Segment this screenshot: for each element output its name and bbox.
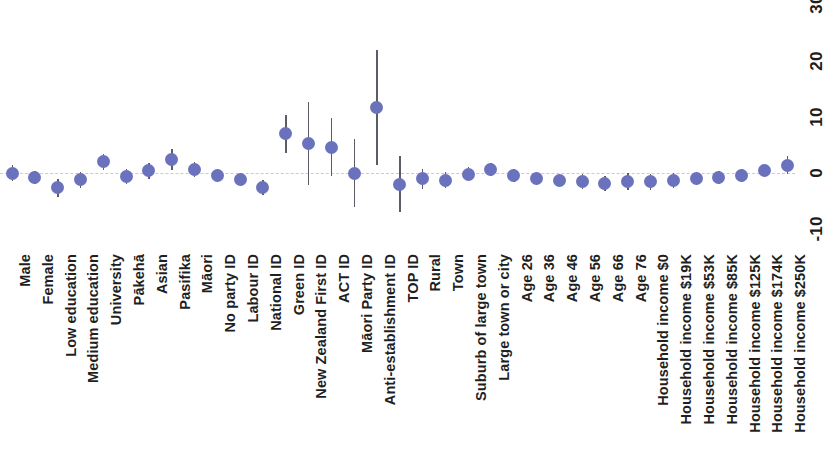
x-axis-tick-label: Low education <box>64 254 79 357</box>
x-axis-tick-label: New Zealand First ID <box>314 254 329 399</box>
x-axis-tick-label-text: Age 76 <box>634 254 649 302</box>
x-axis-tick-label-text: Household income $85K <box>725 254 740 425</box>
data-point-group <box>137 0 160 248</box>
x-axis-tick-label: Pākehā <box>132 254 147 305</box>
data-point-group <box>639 0 662 248</box>
x-axis-tick-label: Household income $125K <box>748 254 763 433</box>
data-point-group <box>274 0 297 248</box>
estimate-dot <box>439 174 452 187</box>
x-axis-tick-label-text: Male <box>18 254 33 287</box>
estimate-dot <box>690 172 703 185</box>
x-axis-tick-label: ACT ID <box>337 254 352 303</box>
estimate-dot <box>735 169 748 182</box>
x-axis-tick-label-text: National ID <box>269 254 284 331</box>
estimate-dot <box>97 155 110 168</box>
estimate-dot <box>279 127 292 140</box>
x-axis-tick-label: Household income $85K <box>725 254 740 425</box>
x-axis-tick-label: Large town or city <box>497 254 512 381</box>
x-axis-tick-label: Household income $250K <box>793 254 808 433</box>
estimate-dot <box>484 163 497 176</box>
x-axis-tick-label-text: New Zealand First ID <box>314 254 329 399</box>
data-point-group <box>411 0 434 248</box>
data-point-group <box>69 0 92 248</box>
x-axis-tick-label: No party ID <box>223 254 238 332</box>
x-axis-tick-label: Household income $174K <box>770 254 785 433</box>
data-point-group <box>297 0 320 248</box>
x-axis-tick-label: Age 36 <box>542 254 557 302</box>
data-point-group <box>479 0 502 248</box>
estimate-dot <box>644 175 657 188</box>
data-point-group <box>1 0 24 248</box>
x-axis-tick-label-text: TOP ID <box>406 254 421 302</box>
data-point-group <box>616 0 639 248</box>
x-axis-tick-label-text: Low education <box>64 254 79 357</box>
data-point-group <box>571 0 594 248</box>
x-axis-tick-label: Town <box>451 254 466 291</box>
x-axis-tick-label: Medium education <box>86 254 101 383</box>
x-axis-tick-label: Household income $0 <box>656 254 671 406</box>
estimate-dot <box>598 177 611 190</box>
estimate-dot <box>712 171 725 184</box>
estimate-dot <box>28 171 41 184</box>
x-axis-tick-label: Rural <box>428 254 443 292</box>
estimate-dot <box>51 181 64 194</box>
data-point-group <box>46 0 69 248</box>
x-axis-tick-label-text: Household income $250K <box>793 254 808 433</box>
x-axis-tick-label: Male <box>18 254 33 287</box>
y-axis-tick-label: 20 <box>807 44 827 78</box>
estimate-dot <box>142 164 155 177</box>
estimate-dot <box>74 173 87 186</box>
data-point-group <box>92 0 115 248</box>
data-point-group <box>525 0 548 248</box>
x-axis-tick-label-text: Suburb of large town <box>474 254 489 401</box>
x-axis-tick-label-text: Female <box>41 254 56 305</box>
x-axis-tick-label-text: Age 26 <box>520 254 535 302</box>
x-axis-category-labels: MaleFemaleLow educationMedium educationU… <box>0 248 800 450</box>
data-point-group <box>776 0 799 248</box>
x-axis-tick-label-text: Pākehā <box>132 254 147 305</box>
x-axis-tick-label: Age 56 <box>588 254 603 302</box>
estimate-dot <box>507 169 520 182</box>
estimate-dot <box>553 174 566 187</box>
estimate-dot <box>302 137 315 150</box>
x-axis-tick-label-text: Asian <box>155 254 170 294</box>
x-axis-tick-label-text: Household income $53K <box>702 254 717 425</box>
estimate-dot <box>188 163 201 176</box>
x-axis-tick-label: Age 26 <box>520 254 535 302</box>
x-axis-tick-label: Pasifika <box>178 254 193 310</box>
x-axis-tick-label-text: Large town or city <box>497 254 512 381</box>
x-axis-tick-label: Household income $53K <box>702 254 717 425</box>
estimate-dot <box>781 159 794 172</box>
data-point-group <box>320 0 343 248</box>
estimate-dot <box>325 141 338 154</box>
x-axis-tick-label-text: Household income $0 <box>656 254 671 406</box>
data-point-group <box>229 0 252 248</box>
x-axis-tick-label-text: ACT ID <box>337 254 352 303</box>
estimate-dot <box>416 172 429 185</box>
estimate-dot <box>165 153 178 166</box>
data-point-group <box>548 0 571 248</box>
x-axis-tick-label-text: Age 36 <box>542 254 557 302</box>
x-axis-tick-label-text: Green ID <box>292 254 307 315</box>
data-point-group <box>730 0 753 248</box>
estimate-dot <box>758 164 771 177</box>
x-axis-tick-label: Māori Party ID <box>360 254 375 353</box>
estimate-dot <box>393 178 406 191</box>
x-axis-tick-label: Female <box>41 254 56 305</box>
x-axis-tick-label: Age 76 <box>634 254 649 302</box>
data-point-group <box>753 0 776 248</box>
estimate-dot <box>667 174 680 187</box>
data-point-group <box>685 0 708 248</box>
estimate-dot <box>621 175 634 188</box>
x-axis-tick-label: Anti-establishment ID <box>383 254 398 405</box>
x-axis-tick-label-text: Māori Party ID <box>360 254 375 353</box>
x-axis-tick-label-text: Pasifika <box>178 254 193 310</box>
x-axis-tick-label: TOP ID <box>406 254 421 302</box>
estimate-dot <box>256 181 269 194</box>
x-axis-tick-label: Labour ID <box>246 254 261 323</box>
x-axis-tick-label: Household income $19K <box>679 254 694 425</box>
x-axis-tick-label-text: Household income $125K <box>748 254 763 433</box>
x-axis-tick-label-text: Household income $174K <box>770 254 785 433</box>
y-axis-tick-label: 30 <box>807 0 827 21</box>
data-point-group <box>206 0 229 248</box>
